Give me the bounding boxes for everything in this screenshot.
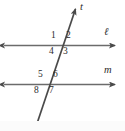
angle-label-7: 7 bbox=[49, 86, 54, 96]
line-label-l: ℓ bbox=[104, 27, 108, 38]
line-label-m: m bbox=[104, 65, 112, 76]
angle-label-3: 3 bbox=[63, 47, 68, 57]
geometry-figure: ℓ m t 1 2 4 3 5 6 8 7 bbox=[0, 0, 125, 131]
angle-label-8: 8 bbox=[34, 86, 39, 96]
line-t-transversal bbox=[37, 9, 76, 125]
angle-label-1: 1 bbox=[51, 31, 56, 41]
line-label-t: t bbox=[80, 2, 83, 13]
angle-label-4: 4 bbox=[49, 47, 54, 57]
angle-label-5: 5 bbox=[38, 70, 43, 80]
angle-label-2: 2 bbox=[66, 31, 71, 41]
angle-label-6: 6 bbox=[53, 70, 58, 80]
footer-band bbox=[0, 121, 125, 131]
